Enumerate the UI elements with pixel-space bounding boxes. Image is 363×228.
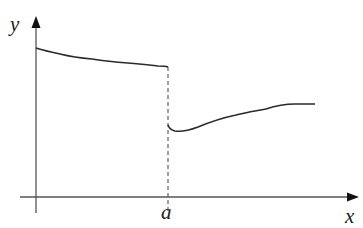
curve-left-branch bbox=[36, 48, 168, 67]
diagram-canvas bbox=[0, 0, 363, 228]
tick-label-a: a bbox=[161, 202, 172, 223]
curve-right-branch bbox=[168, 104, 315, 131]
y-axis-arrow-icon bbox=[32, 16, 41, 28]
x-axis-label: x bbox=[345, 206, 354, 227]
x-axis-arrow-icon bbox=[347, 193, 359, 202]
y-axis-label: y bbox=[10, 14, 19, 35]
